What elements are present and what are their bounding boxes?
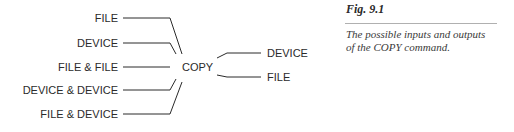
figure-caption: Fig. 9.1 The possible inputs and outputs… (345, 2, 497, 54)
output-line-file (217, 75, 261, 77)
input-label-device-and-device: DEVICE & DEVICE (23, 84, 118, 96)
input-line-file-and-device (123, 82, 182, 114)
output-line-device (217, 53, 261, 58)
input-line-device (123, 43, 176, 54)
input-label-file: FILE (95, 12, 118, 24)
input-label-device: DEVICE (77, 37, 118, 49)
copy-command-node: COPY (182, 61, 213, 73)
input-label-file-and-device: FILE & DEVICE (40, 108, 118, 120)
caption-divider (345, 23, 497, 24)
input-label-file-and-file: FILE & FILE (58, 61, 118, 73)
figure-number: Fig. 9.1 (345, 2, 497, 16)
output-label-file: FILE (267, 71, 290, 83)
copy-command-diagram: FILE DEVICE FILE & FILE DEVICE & DEVICE … (0, 0, 514, 132)
output-label-device: DEVICE (267, 47, 308, 59)
input-line-device-and-device (123, 79, 176, 90)
caption-line-2: of the COPY command. (345, 41, 497, 54)
caption-line-1: The possible inputs and outputs (345, 28, 497, 41)
